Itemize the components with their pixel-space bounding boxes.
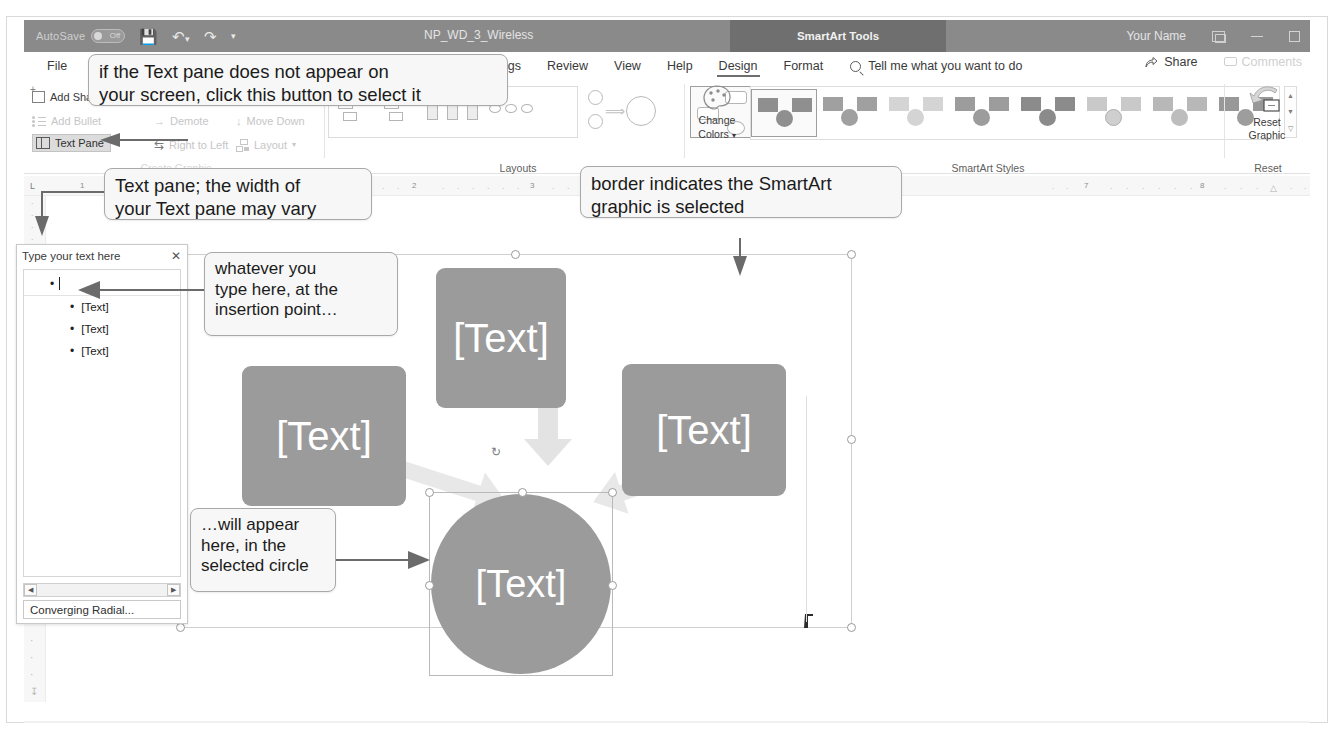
callout-insertion-point: whatever you type here, at the insertion… bbox=[204, 252, 398, 336]
callout-leaders bbox=[0, 0, 1334, 743]
callout-text-pane-width: Text pane; the width of your Text pane m… bbox=[104, 168, 372, 220]
callout-text-pane-button: if the Text pane does not appear on your… bbox=[88, 54, 508, 106]
callout-selected-circle: …will appear here, in the selected circl… bbox=[190, 508, 336, 592]
word-window: AutoSave Off 💾 ↶▾ ↷ ▾ NP_WD_3_Wireless S… bbox=[0, 0, 1334, 743]
callout-border-selected: border indicates the SmartArt graphic is… bbox=[580, 166, 902, 218]
